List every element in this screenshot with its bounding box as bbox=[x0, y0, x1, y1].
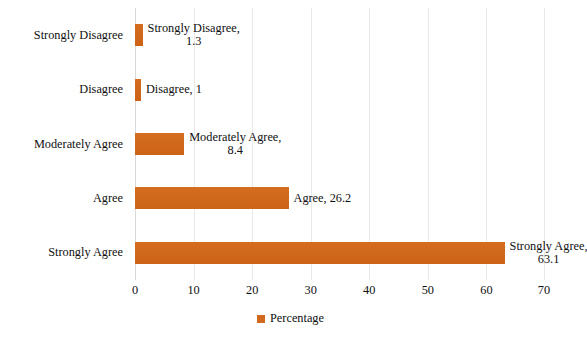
bar-row-agree: Agree, 26.2 bbox=[135, 171, 545, 225]
legend-item-label[interactable]: Percentage bbox=[270, 311, 324, 326]
x-tick-label: 20 bbox=[246, 283, 258, 298]
category-label: Disagree bbox=[0, 62, 129, 116]
bar-data-label: Strongly Disagree, 1.3 bbox=[148, 22, 240, 49]
x-tick-label: 40 bbox=[363, 283, 375, 298]
x-tick-label: 30 bbox=[305, 283, 317, 298]
bar-data-label: Agree, 26.2 bbox=[294, 192, 352, 205]
chart-legend: Percentage bbox=[0, 311, 581, 326]
bar[interactable] bbox=[135, 24, 143, 46]
category-label: Strongly Agree bbox=[0, 226, 129, 280]
bar-row-strongly-agree: Strongly Agree, 63.1 bbox=[135, 226, 545, 280]
category-label: Moderately Agree bbox=[0, 117, 129, 171]
bar[interactable] bbox=[135, 133, 184, 155]
legend-swatch-icon bbox=[257, 315, 265, 323]
x-tick-label: 60 bbox=[480, 283, 492, 298]
y-axis-category-labels: Strongly Disagree Disagree Moderately Ag… bbox=[0, 8, 129, 280]
x-tick-label: 50 bbox=[422, 283, 434, 298]
x-tick-label: 70 bbox=[538, 283, 550, 298]
x-axis-ticks: 0 10 20 30 40 50 60 70 bbox=[135, 283, 545, 303]
category-label: Agree bbox=[0, 171, 129, 225]
bar-row-disagree: Disagree, 1 bbox=[135, 62, 545, 116]
bar[interactable] bbox=[135, 187, 289, 209]
bar-rows: Strongly Disagree, 1.3 Disagree, 1 Moder… bbox=[135, 8, 545, 280]
plot-area: Strongly Disagree, 1.3 Disagree, 1 Moder… bbox=[135, 8, 545, 280]
bar[interactable] bbox=[135, 242, 505, 264]
bar-row-moderately-agree: Moderately Agree, 8.4 bbox=[135, 117, 545, 171]
bar[interactable] bbox=[135, 79, 141, 101]
x-tick-label: 0 bbox=[132, 283, 138, 298]
category-label: Strongly Disagree bbox=[0, 8, 129, 62]
bar-data-label: Moderately Agree, 8.4 bbox=[189, 131, 281, 158]
bar-row-strongly-disagree: Strongly Disagree, 1.3 bbox=[135, 8, 545, 62]
bar-data-label: Strongly Agree, 63.1 bbox=[510, 240, 587, 267]
x-tick-label: 10 bbox=[187, 283, 199, 298]
bar-data-label: Disagree, 1 bbox=[146, 83, 202, 96]
